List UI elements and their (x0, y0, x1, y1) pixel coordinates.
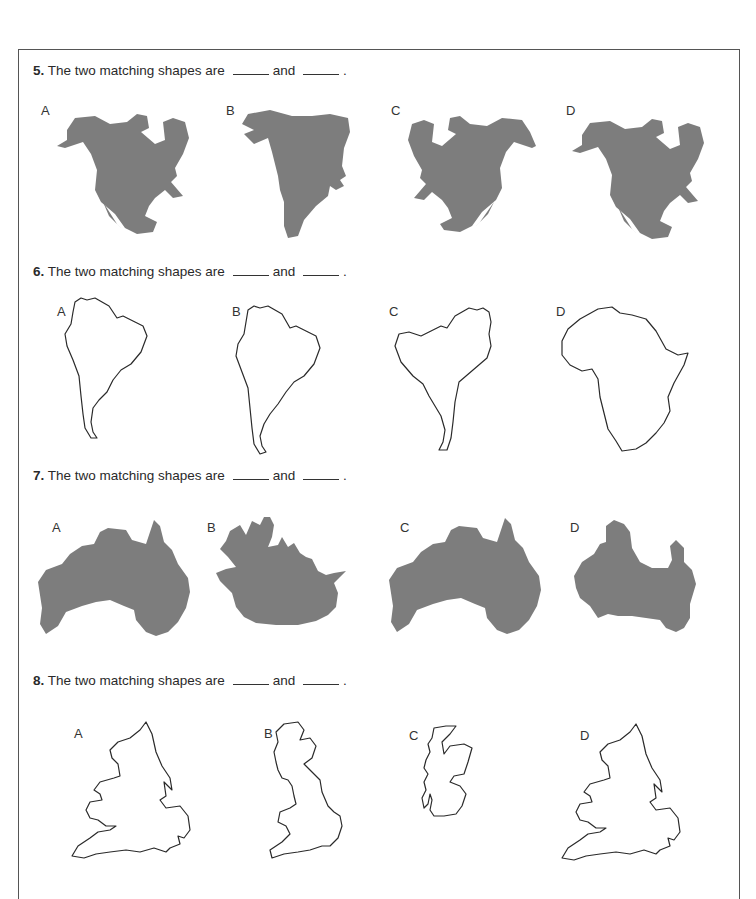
period: . (343, 673, 347, 688)
connector-text: and (273, 468, 296, 483)
question-number: 5. (33, 63, 44, 78)
question-text: The two matching shapes are (48, 468, 225, 483)
question-text: The two matching shapes are (48, 264, 225, 279)
africa-outline-d (560, 305, 700, 455)
north-america-shape-d (570, 115, 705, 240)
answer-blank-2[interactable] (303, 468, 339, 480)
great-britain-outline-b (268, 720, 353, 860)
australia-shape-c (387, 518, 542, 638)
scotland-outline-c (420, 724, 480, 819)
option-label-c: C (409, 728, 418, 743)
south-america-outline-b (236, 304, 341, 459)
south-america-outline-c (389, 306, 499, 456)
question-number: 7. (33, 468, 44, 483)
north-america-shape-b (240, 110, 355, 238)
option-label-a: A (41, 103, 50, 118)
question-number: 8. (33, 673, 44, 688)
north-america-shape-c (402, 112, 537, 232)
north-america-shape-a (55, 110, 195, 235)
answer-blank-2[interactable] (303, 264, 339, 276)
period: . (343, 468, 347, 483)
australia-shape-d (572, 518, 697, 638)
question-number: 6. (33, 264, 44, 279)
australia-shape-a (36, 520, 191, 640)
connector-text: and (273, 63, 296, 78)
england-wales-outline-d (560, 722, 680, 862)
distorted-shape-b (216, 515, 356, 630)
answer-blank-1[interactable] (233, 673, 269, 685)
england-wales-outline-a (70, 720, 190, 860)
question-8: 8. The two matching shapes are and . (33, 673, 347, 688)
question-text: The two matching shapes are (48, 673, 225, 688)
period: . (343, 63, 347, 78)
option-label-b: B (207, 520, 216, 535)
answer-blank-1[interactable] (233, 468, 269, 480)
question-5: 5. The two matching shapes are and . (33, 63, 347, 78)
south-america-outline-a (65, 296, 170, 446)
connector-text: and (273, 264, 296, 279)
option-label-b: B (226, 103, 235, 118)
answer-blank-2[interactable] (303, 673, 339, 685)
answer-blank-1[interactable] (233, 264, 269, 276)
answer-blank-1[interactable] (233, 63, 269, 75)
answer-blank-2[interactable] (303, 63, 339, 75)
question-7: 7. The two matching shapes are and . (33, 468, 347, 483)
period: . (343, 264, 347, 279)
connector-text: and (273, 673, 296, 688)
option-label-c: C (391, 103, 400, 118)
question-6: 6. The two matching shapes are and . (33, 264, 347, 279)
question-text: The two matching shapes are (48, 63, 225, 78)
